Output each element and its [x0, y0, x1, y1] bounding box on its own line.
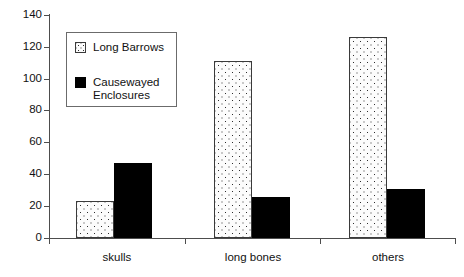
y-tick-label-100: 100 [2, 73, 42, 85]
x-tick-start [49, 239, 50, 244]
legend-swatch-solid-icon [75, 77, 86, 88]
y-tick-140 [44, 15, 50, 16]
y-tick-80 [44, 110, 50, 111]
legend-swatch-dotted-icon [75, 42, 86, 53]
bar-skulls-causewayed-enclosures[interactable] [114, 163, 152, 238]
y-tick-label-140: 140 [2, 9, 42, 21]
y-tick-label-20: 20 [2, 200, 42, 212]
y-tick-20 [44, 206, 50, 207]
bar-long-bones-causewayed-enclosures[interactable] [252, 197, 290, 238]
x-tick-sep-1 [185, 239, 186, 244]
x-cat-label-long-bones: long bones [202, 251, 304, 264]
x-cat-label-others: others [347, 251, 429, 264]
bar-others-long-barrows[interactable] [349, 37, 387, 238]
bar-skulls-long-barrows[interactable] [76, 201, 114, 238]
bar-long-bones-long-barrows[interactable] [214, 61, 252, 238]
bar-chart: 140 120 100 80 60 40 20 0 skulls l [0, 0, 464, 277]
y-tick-100 [44, 79, 50, 80]
y-tick-label-120: 120 [2, 41, 42, 53]
y-tick-40 [44, 174, 50, 175]
y-tick-label-0: 0 [2, 232, 42, 244]
x-cat-label-skulls: skulls [77, 251, 157, 264]
legend: Long Barrows Causewayed Enclosures [66, 32, 177, 107]
legend-label-long-barrows: Long Barrows [93, 41, 164, 54]
legend-item-causewayed-enclosures[interactable]: Causewayed Enclosures [75, 76, 159, 101]
y-tick-label-60: 60 [2, 136, 42, 148]
legend-label-causewayed-enclosures: Causewayed Enclosures [93, 76, 159, 101]
y-tick-120 [44, 47, 50, 48]
y-tick-label-80: 80 [2, 104, 42, 116]
bar-others-causewayed-enclosures[interactable] [387, 189, 425, 238]
x-axis-line [49, 238, 456, 239]
x-tick-sep-2 [320, 239, 321, 244]
x-tick-end [455, 239, 456, 244]
y-tick-60 [44, 142, 50, 143]
y-tick-label-40: 40 [2, 168, 42, 180]
legend-item-long-barrows[interactable]: Long Barrows [75, 41, 164, 54]
